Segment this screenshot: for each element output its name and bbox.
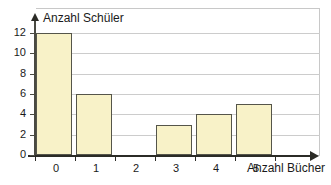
y-tick-label: 6	[2, 88, 26, 99]
y-tick-label: 10	[2, 47, 26, 58]
bar	[156, 125, 192, 156]
x-axis-title: Anzahl Bücher	[247, 161, 325, 175]
x-tick-mark	[115, 155, 116, 161]
x-axis-line	[28, 155, 312, 157]
x-tick-label: 2	[122, 162, 150, 174]
y-tick-label: 0	[2, 149, 26, 160]
y-tick-label: 4	[2, 108, 26, 119]
x-tick-label: 4	[202, 162, 230, 174]
y-axis-arrow-icon	[31, 13, 39, 21]
x-tick-mark	[155, 155, 156, 161]
x-tick-label: 1	[82, 162, 110, 174]
y-tick-label: 8	[2, 68, 26, 79]
x-tick-label: 3	[162, 162, 190, 174]
bar	[36, 33, 72, 155]
y-axis-title: Anzahl Schüler	[43, 11, 124, 25]
x-tick-mark	[195, 155, 196, 161]
bar	[236, 104, 272, 155]
x-axis-arrow-icon	[310, 151, 319, 161]
y-tick-label: 12	[2, 27, 26, 38]
bar	[196, 114, 232, 155]
y-tick-label: 2	[2, 129, 26, 140]
x-tick-mark	[235, 155, 236, 161]
bar	[76, 94, 112, 155]
x-tick-mark	[75, 155, 76, 161]
y-tick-mark	[30, 33, 36, 34]
x-tick-mark	[35, 155, 36, 161]
y-tick-mark	[30, 135, 36, 136]
y-tick-mark	[30, 74, 36, 75]
y-tick-mark	[30, 53, 36, 54]
x-tick-label: 0	[42, 162, 70, 174]
y-tick-mark	[30, 114, 36, 115]
y-tick-mark	[30, 94, 36, 95]
bar-chart-figure: 024681012 012345 Anzahl Schüler Anzahl B…	[0, 0, 331, 185]
